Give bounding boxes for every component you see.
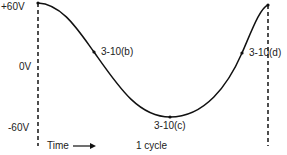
- y-label-negative-peak: -60V: [8, 122, 29, 134]
- y-label-zero: 0V: [19, 61, 31, 73]
- time-arrow-head-icon: [90, 143, 96, 149]
- point-e-marker: [266, 3, 269, 6]
- point-c-marker: [168, 115, 171, 118]
- time-axis-label: Time: [47, 140, 69, 152]
- voltage-waveform-curve: [38, 3, 268, 117]
- cycle-period-label: 1 cycle: [136, 140, 167, 152]
- point-b-label: 3-10(b): [101, 46, 133, 58]
- point-c-label: 3-10(c): [154, 120, 186, 132]
- point-b-marker: [92, 50, 95, 53]
- point-a-marker: [36, 1, 39, 4]
- point-d-marker: [240, 51, 243, 54]
- waveform-diagram: [0, 0, 287, 155]
- point-d-label: 3-10(d): [249, 47, 281, 59]
- y-label-positive-peak: +60V: [1, 1, 25, 13]
